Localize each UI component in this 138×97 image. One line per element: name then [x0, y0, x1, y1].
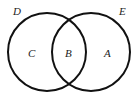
circle-d [8, 13, 86, 91]
circle-e [52, 13, 130, 91]
region-label-c: C [28, 47, 36, 59]
region-label-b: B [65, 47, 72, 59]
region-label-a: A [103, 47, 111, 59]
set-label-e: E [118, 5, 126, 17]
set-label-d: D [12, 5, 21, 17]
venn-diagram: D E C B A [0, 0, 138, 97]
